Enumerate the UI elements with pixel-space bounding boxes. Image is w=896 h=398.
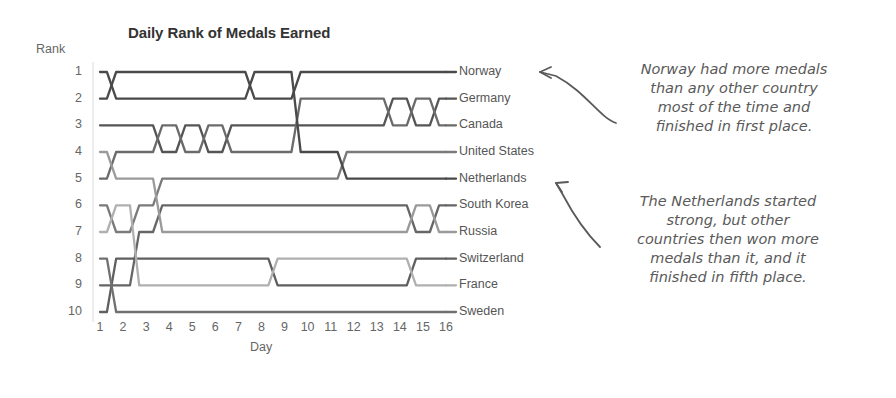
day-tick-2: 2 [112, 320, 134, 334]
series-label-germany: Germany [459, 91, 510, 105]
rank-tick-7: 7 [38, 224, 82, 238]
series-label-netherlands: Netherlands [459, 171, 526, 185]
rank-tick-8: 8 [38, 251, 82, 265]
series-label-south-korea: South Korea [459, 197, 529, 211]
page-title: Daily Rank of Medals Earned [128, 24, 330, 41]
series-line-south-korea [100, 205, 446, 285]
series-label-france: France [459, 277, 498, 291]
rank-tick-3: 3 [38, 117, 82, 131]
day-tick-7: 7 [227, 320, 249, 334]
day-tick-1: 1 [89, 320, 111, 334]
day-tick-8: 8 [250, 320, 272, 334]
series-line-canada [100, 99, 446, 179]
rank-tick-1: 1 [38, 64, 82, 78]
day-tick-11: 11 [320, 320, 342, 334]
series-label-russia: Russia [459, 224, 497, 238]
day-tick-10: 10 [297, 320, 319, 334]
day-tick-9: 9 [274, 320, 296, 334]
series-label-norway: Norway [459, 64, 501, 78]
series-line-russia [100, 152, 446, 232]
bump-chart-page: Daily Rank of Medals Earned Rank Day 123… [0, 0, 896, 398]
day-tick-16: 16 [435, 320, 457, 334]
day-tick-5: 5 [181, 320, 203, 334]
rank-tick-2: 2 [38, 91, 82, 105]
series-label-sweden: Sweden [459, 304, 504, 318]
series-label-canada: Canada [459, 117, 503, 131]
y-axis-label: Rank [36, 42, 65, 56]
series-line-france [100, 205, 446, 285]
day-tick-13: 13 [366, 320, 388, 334]
x-axis-label: Day [250, 340, 272, 354]
rank-tick-6: 6 [38, 197, 82, 211]
series-label-switzerland: Switzerland [459, 251, 524, 265]
rank-tick-10: 10 [38, 304, 82, 318]
day-tick-3: 3 [135, 320, 157, 334]
day-tick-15: 15 [412, 320, 434, 334]
day-tick-4: 4 [158, 320, 180, 334]
rank-tick-4: 4 [38, 144, 82, 158]
series-line-united-states [100, 152, 446, 232]
day-tick-6: 6 [204, 320, 226, 334]
series-label-united-states: United States [459, 144, 534, 158]
series-line-germany [100, 99, 446, 152]
series-line-netherlands [100, 72, 446, 179]
series-line-norway [100, 72, 446, 99]
annotation-norway: Norway had more medals than any other co… [586, 60, 882, 136]
day-tick-12: 12 [343, 320, 365, 334]
annotation-netherlands: The Netherlands started strong, but othe… [570, 192, 886, 287]
day-tick-14: 14 [389, 320, 411, 334]
rank-tick-5: 5 [38, 171, 82, 185]
series-line-switzerland [100, 259, 446, 312]
rank-tick-9: 9 [38, 277, 82, 291]
series-line-sweden [100, 259, 446, 312]
